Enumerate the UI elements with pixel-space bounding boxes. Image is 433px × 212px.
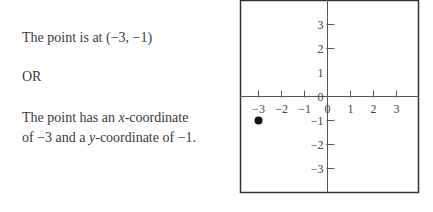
y-tick-label: 1 xyxy=(318,66,324,80)
y-tick-label: −2 xyxy=(311,138,324,152)
y-tick-label: 2 xyxy=(318,42,324,56)
y-tick-label: 0 xyxy=(318,90,324,104)
x-tick-label: 2 xyxy=(371,102,377,116)
data-point xyxy=(255,117,263,125)
coordinate-plane: −3−2−10123 3210−1−2−3 xyxy=(0,0,433,212)
x-tick-label: −2 xyxy=(275,102,288,116)
x-tick-label: 0 xyxy=(325,102,331,116)
x-tick-label: 3 xyxy=(394,102,400,116)
x-tick-label: −1 xyxy=(298,102,311,116)
data-points xyxy=(255,117,263,125)
x-tick-label: −3 xyxy=(252,102,265,116)
y-tick-label: −1 xyxy=(311,114,324,128)
x-tick-label: 1 xyxy=(348,102,354,116)
y-tick-label: −3 xyxy=(311,162,324,176)
x-ticks: −3−2−10123 xyxy=(252,91,399,116)
y-tick-label: 3 xyxy=(318,18,324,32)
